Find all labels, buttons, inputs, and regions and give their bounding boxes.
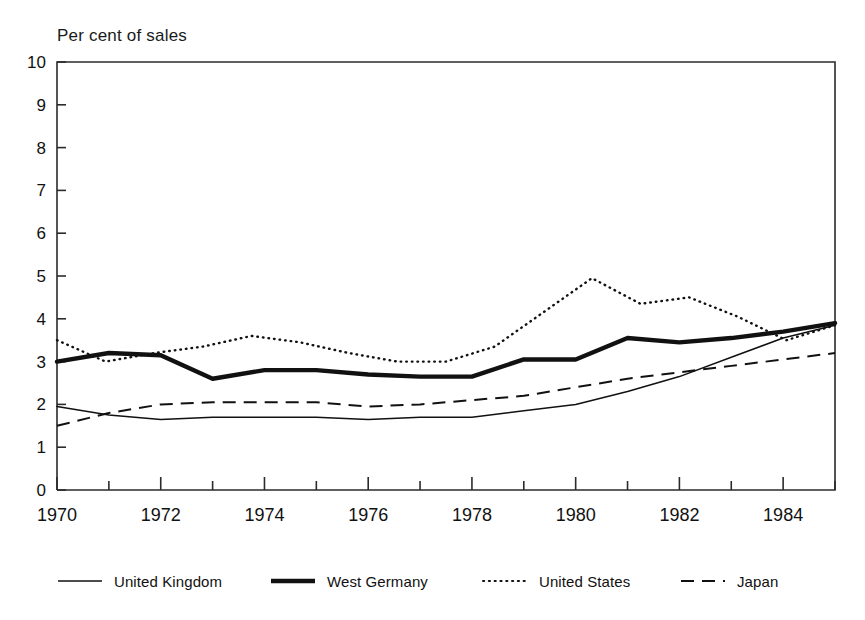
svg-text:1978: 1978: [452, 505, 492, 525]
series-line-west-germany: [57, 323, 835, 379]
line-chart-svg: 012345678910 197019721974197619781980198…: [0, 0, 865, 620]
svg-text:1984: 1984: [763, 505, 803, 525]
svg-text:1974: 1974: [244, 505, 284, 525]
legend-swatch-solid-thick-icon: [270, 574, 316, 588]
svg-text:1982: 1982: [659, 505, 699, 525]
svg-text:9: 9: [37, 96, 46, 115]
x-axis-ticks: [57, 477, 835, 490]
legend-label-united-kingdom: United Kingdom: [114, 573, 222, 590]
legend-label-west-germany: West Germany: [327, 573, 428, 590]
legend-item-japan[interactable]: Japan: [680, 573, 840, 590]
svg-text:1972: 1972: [141, 505, 181, 525]
legend-label-japan: Japan: [737, 573, 778, 590]
svg-text:1: 1: [37, 438, 46, 457]
chart-legend: United Kingdom West Germany United State…: [57, 566, 847, 596]
svg-text:0: 0: [37, 481, 46, 500]
svg-text:1980: 1980: [556, 505, 596, 525]
legend-swatch-solid-thin-icon: [57, 574, 103, 588]
svg-text:1970: 1970: [37, 505, 77, 525]
svg-text:5: 5: [37, 267, 46, 286]
legend-label-united-states: United States: [539, 573, 630, 590]
legend-swatch-dashed-icon: [680, 574, 726, 588]
legend-item-west-germany[interactable]: West Germany: [270, 573, 482, 590]
legend-item-united-kingdom[interactable]: United Kingdom: [57, 573, 270, 590]
svg-text:6: 6: [37, 224, 46, 243]
svg-text:2: 2: [37, 395, 46, 414]
svg-text:4: 4: [37, 310, 46, 329]
legend-item-united-states[interactable]: United States: [482, 573, 680, 590]
x-axis-tick-labels: 19701972197419761978198019821984: [37, 505, 803, 525]
chart-page: Per cent of sales 012345678910 197019721…: [0, 0, 865, 620]
svg-text:7: 7: [37, 181, 46, 200]
legend-swatch-dotted-icon: [482, 574, 528, 588]
series-line-japan: [57, 353, 835, 426]
svg-text:3: 3: [37, 353, 46, 372]
svg-text:10: 10: [27, 53, 46, 72]
series-lines: [57, 278, 835, 426]
plot-area: 012345678910 197019721974197619781980198…: [0, 0, 865, 620]
series-line-united-states: [57, 278, 835, 361]
plot-frame: [57, 62, 835, 490]
y-axis-tick-labels: 012345678910: [27, 53, 46, 500]
svg-text:8: 8: [37, 139, 46, 158]
svg-text:1976: 1976: [348, 505, 388, 525]
